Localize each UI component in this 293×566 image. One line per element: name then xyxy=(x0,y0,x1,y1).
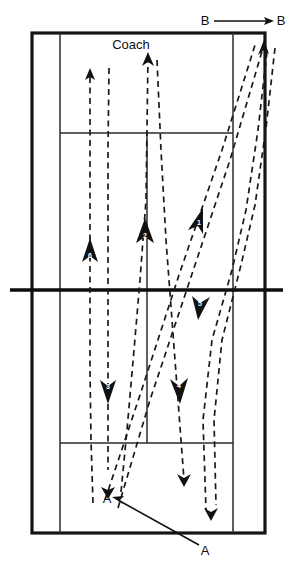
court-diagram: 6 3 2 4 xyxy=(0,0,293,566)
court-diagram-svg: 6 3 2 4 xyxy=(0,0,293,566)
label-b-left: B xyxy=(201,13,210,28)
label-b-right: B xyxy=(277,13,286,28)
label-a-court: A xyxy=(103,491,112,506)
court-surface xyxy=(32,33,265,533)
label-coach: Coach xyxy=(112,37,150,52)
label-a-outside: A xyxy=(201,543,210,558)
